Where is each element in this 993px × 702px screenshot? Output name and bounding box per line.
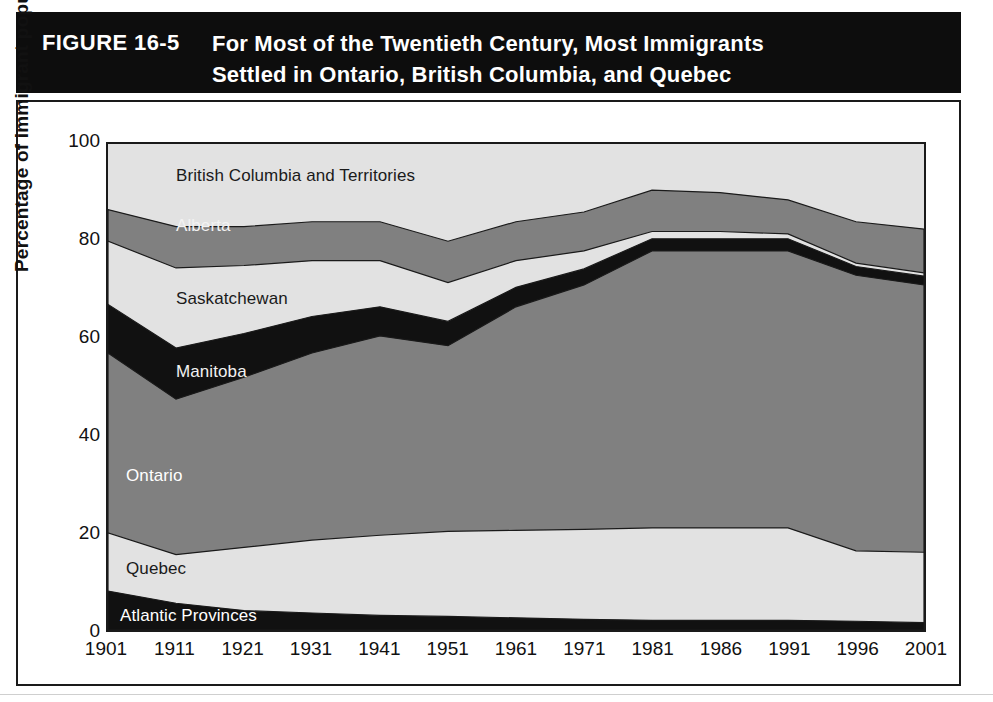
y-axis-ticks: 100806040200 [44,142,100,632]
x-tick-label: 2001 [891,638,961,660]
series-label-ontario: Ontario [126,466,182,486]
x-tick-label: 1951 [413,638,483,660]
y-tick-label: 40 [54,424,100,446]
x-tick-label: 1961 [481,638,551,660]
x-axis-ticks: 1901191119211931194119511961197119811986… [106,638,926,672]
x-tick-label: 1981 [618,638,688,660]
figure-title-line-1: For Most of the Twentieth Century, Most … [212,28,942,59]
figure-number: FIGURE 16-5 [42,30,180,56]
figure-title-banner: FIGURE 16-5 For Most of the Twentieth Ce… [16,12,961,93]
footer-rule [0,694,993,695]
series-label-quebec: Quebec [126,559,186,579]
chart-frame: Percentage of immigrant population 10080… [16,100,961,686]
series-label-saskatchewan: Saskatchewan [176,289,288,309]
y-axis-title: Percentage of immigrant population [11,0,33,272]
x-tick-label: 1971 [549,638,619,660]
series-label-atlantic-provinces: Atlantic Provinces [120,606,257,626]
x-tick-label: 1931 [276,638,346,660]
x-tick-label: 1986 [686,638,756,660]
x-tick-label: 1921 [208,638,278,660]
x-tick-label: 1996 [823,638,893,660]
series-label-alberta: Alberta [176,216,231,236]
x-tick-label: 1991 [754,638,824,660]
y-tick-label: 60 [54,326,100,348]
x-tick-label: 1901 [71,638,141,660]
y-tick-label: 100 [54,130,100,152]
series-label-manitoba: Manitoba [176,362,247,382]
figure-container: FIGURE 16-5 For Most of the Twentieth Ce… [0,0,993,702]
figure-title-line-2: Settled in Ontario, British Columbia, an… [212,59,942,90]
y-tick-label: 20 [54,522,100,544]
plot-area: British Columbia and TerritoriesAlbertaS… [106,142,926,632]
series-label-british-columbia-and-territories: British Columbia and Territories [176,166,415,186]
figure-title: For Most of the Twentieth Century, Most … [212,28,942,90]
x-tick-label: 1911 [139,638,209,660]
y-tick-label: 80 [54,228,100,250]
x-tick-label: 1941 [344,638,414,660]
